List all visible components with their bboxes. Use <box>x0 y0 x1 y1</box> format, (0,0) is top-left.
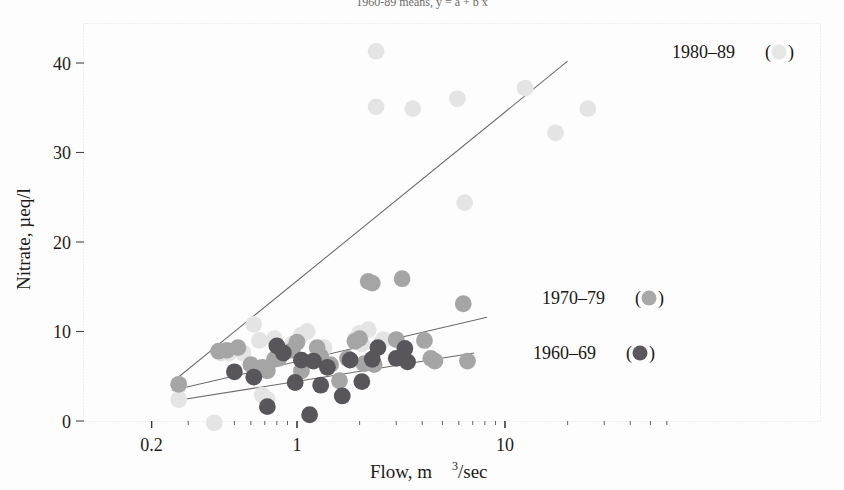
legend-paren-open-1960-69: ( <box>626 343 632 364</box>
data-point <box>287 374 304 391</box>
data-point <box>245 316 262 333</box>
legend-label-1980-89: 1980–89 <box>672 42 735 62</box>
data-point <box>370 339 387 356</box>
data-point <box>289 334 306 351</box>
plot-canvas: 1960-89 means, y = a + b x 0.2110 010203… <box>0 0 844 490</box>
x-tick-label: 0.2 <box>140 435 163 455</box>
x-axis-tick-labels: 0.2110 <box>140 435 514 455</box>
data-point <box>399 354 416 371</box>
y-tick-label: 10 <box>53 322 71 342</box>
legend-paren-open-1980-89: ( <box>765 42 771 63</box>
data-point <box>517 80 534 97</box>
legend-swatch-1960-69 <box>633 346 648 361</box>
y-tick-label: 40 <box>53 54 71 74</box>
data-point <box>416 332 433 349</box>
legend-label-1960-69: 1960–69 <box>533 343 596 363</box>
nitrate-vs-flow-scatter-chart: 1960-89 means, y = a + b x 0.2110 010203… <box>0 0 844 490</box>
data-point <box>251 332 268 349</box>
legend-group: 1980–89 ( ) 1970–79 ( ) 1960–69 ( ) <box>533 42 794 364</box>
legend-entry-1970-79[interactable]: 1970–79 ( ) <box>542 288 664 309</box>
data-point <box>455 295 472 312</box>
data-point <box>579 100 596 117</box>
data-point <box>245 369 262 386</box>
y-tick-label: 20 <box>53 233 71 253</box>
data-point <box>459 353 476 370</box>
legend-paren-close-1970-79: ) <box>658 288 664 309</box>
data-point <box>331 372 348 389</box>
legend-label-1970-79: 1970–79 <box>542 288 605 308</box>
x-tick-label: 1 <box>293 435 302 455</box>
data-point <box>230 339 247 356</box>
data-point <box>334 388 351 405</box>
data-point <box>353 373 370 390</box>
data-point <box>426 353 443 370</box>
legend-paren-open-1970-79: ( <box>635 288 641 309</box>
data-point <box>368 43 385 60</box>
data-point <box>342 352 359 369</box>
legend-swatch-1970-79 <box>642 291 657 306</box>
x-tick-label: 10 <box>496 435 514 455</box>
legend-swatch-1980-89 <box>772 45 787 60</box>
y-axis-tick-labels: 010203040 <box>53 54 71 432</box>
x-axis-title-tail: /sec <box>458 461 488 482</box>
legend-paren-close-1980-89: ) <box>788 42 794 63</box>
data-point <box>449 90 466 107</box>
data-point <box>351 330 368 347</box>
data-point <box>275 345 292 362</box>
x-axis-title: Flow, m 3 /sec <box>370 459 488 482</box>
y-axis-title: Nitrate, µeq/l <box>13 188 34 290</box>
data-point <box>170 391 187 408</box>
data-point <box>547 124 564 141</box>
y-tick-label: 0 <box>62 412 71 432</box>
y-axis-title-text: Nitrate, µeq/l <box>13 188 34 290</box>
data-point <box>312 377 329 394</box>
chart-title: 1960-89 means, y = a + b x <box>356 0 488 9</box>
data-point <box>364 275 381 292</box>
x-axis-title-text: Flow, m <box>370 461 432 482</box>
data-point <box>259 398 276 415</box>
data-point <box>301 406 318 423</box>
data-point <box>394 270 411 287</box>
x-axis-minor-ticks <box>152 421 667 428</box>
legend-entry-1980-89[interactable]: 1980–89 ( ) <box>672 42 794 63</box>
y-axis-major-ticks <box>76 63 84 421</box>
data-point <box>404 100 421 117</box>
data-point <box>206 414 223 431</box>
data-point <box>368 98 385 115</box>
y-tick-label: 30 <box>53 143 71 163</box>
legend-entry-1960-69[interactable]: 1960–69 ( ) <box>533 343 655 364</box>
data-point <box>319 359 336 376</box>
data-point <box>170 376 187 393</box>
data-point <box>226 363 243 380</box>
x-axis-major-ticks <box>152 421 505 428</box>
plot-frame <box>84 24 821 422</box>
data-point <box>456 194 473 211</box>
legend-paren-close-1960-69: ) <box>649 343 655 364</box>
